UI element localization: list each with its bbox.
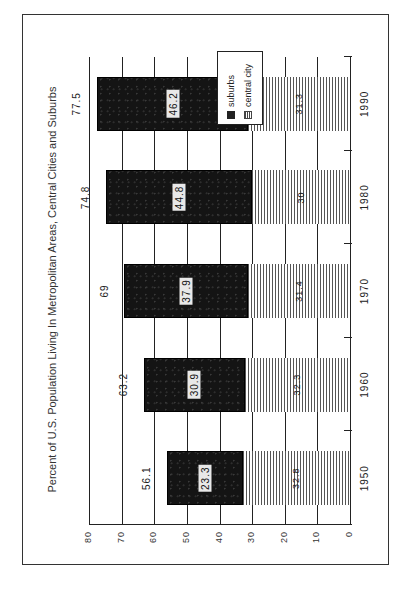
suburbs-segment: 44.8 [106,170,252,224]
y-tick-label: 50 [181,531,191,555]
suburbs-segment: 37.9 [124,264,248,318]
total-value-label: 56.1 [141,451,152,505]
legend-label: central city [243,64,253,107]
central-city-segment: 32.8 [243,451,350,505]
x-tick [344,150,352,151]
x-category-label: 1990 [359,77,370,131]
plot-area: 0102030405060708032.823.356.1195032.330.… [89,57,350,525]
legend-item-suburbs: suburbs [226,75,236,119]
legend: suburbs central city [217,51,263,125]
total-value-label: 77.5 [71,77,82,131]
x-tick [344,524,352,525]
central-city-value-label: 32.8 [291,467,301,489]
suburbs-value-label: 44.8 [173,184,186,211]
x-category-label: 1970 [359,264,370,318]
suburbs-segment: 23.3 [167,451,243,505]
x-tick [344,430,352,431]
y-tick-label: 40 [214,531,224,555]
suburbs-value-label: 30.9 [188,371,201,398]
bar-1950: 32.823.3 [89,451,350,505]
total-value-label: 63.2 [118,358,129,412]
y-tick-label: 80 [83,531,93,555]
legend-item-central-city: central city [243,64,253,119]
x-category-label: 1960 [359,358,370,412]
total-value-label: 74.8 [80,170,91,224]
total-value-label: 69 [99,264,110,318]
y-tick-label: 10 [311,531,321,555]
chart-title: Percent of U.S. Population Living In Met… [46,14,58,565]
x-axis [350,57,351,525]
x-category-label: 1950 [359,451,370,505]
y-tick-label: 0 [344,531,354,555]
x-category-label: 1980 [359,170,370,224]
central-city-value-label: 31.3 [294,93,304,115]
legend-label: suburbs [226,75,236,107]
suburbs-value-label: 23.3 [198,464,211,491]
central-city-segment: 31.4 [248,264,350,318]
bar-1980: 3044.8 [89,170,350,224]
central-city-value-label: 32.3 [292,374,302,396]
x-tick [344,56,352,57]
suburbs-swatch-icon [227,111,235,119]
central-city-segment: 31.3 [248,77,350,131]
bar-1970: 31.437.9 [89,264,350,318]
y-tick-label: 60 [148,531,158,555]
x-tick [344,337,352,338]
y-tick-label: 70 [116,531,126,555]
y-tick-label: 30 [246,531,256,555]
suburbs-segment: 30.9 [144,358,245,412]
rotated-chart: Percent of U.S. Population Living In Met… [22,14,389,565]
central-city-value-label: 31.4 [294,280,304,302]
suburbs-value-label: 37.9 [179,277,192,304]
y-tick-label: 20 [279,531,289,555]
central-city-swatch-icon [244,111,252,119]
central-city-segment: 30 [252,170,350,224]
central-city-value-label: 30 [296,191,306,203]
suburbs-value-label: 46.2 [166,90,179,117]
central-city-segment: 32.3 [245,358,350,412]
x-tick [344,243,352,244]
